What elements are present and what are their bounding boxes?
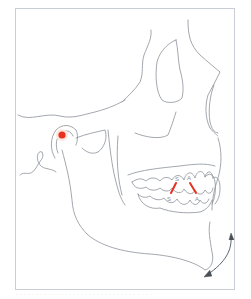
orbit <box>156 40 183 102</box>
ramus-front <box>117 136 122 195</box>
nasal-inner <box>209 85 218 133</box>
tooth-label-lower-s: S <box>167 196 171 202</box>
orbit-outer <box>122 30 151 102</box>
motion-arrow-icon <box>204 233 234 277</box>
zygomatic-line <box>18 100 125 118</box>
tooth-label-upper-s: S <box>175 176 179 182</box>
tooth-mark-a <box>190 183 196 193</box>
tooth-label-upper-a: A <box>187 175 191 181</box>
mandible-coronoid <box>108 130 125 205</box>
skull-illustration: S S A A <box>0 0 251 299</box>
nasal-profile <box>188 20 220 136</box>
articular-eminence <box>76 130 106 153</box>
mastoid-process <box>20 152 56 175</box>
figure-caption: · · · · · · · · · · · · · · · · · · · · … <box>16 291 236 299</box>
mandible-ramus <box>62 150 213 270</box>
maxilla-line <box>135 112 176 138</box>
condyle-dot <box>58 131 65 138</box>
chin-profile <box>212 138 221 210</box>
gum-line <box>128 164 215 175</box>
upper-teeth <box>132 171 213 182</box>
tooth-label-lower-a: A <box>195 196 199 202</box>
